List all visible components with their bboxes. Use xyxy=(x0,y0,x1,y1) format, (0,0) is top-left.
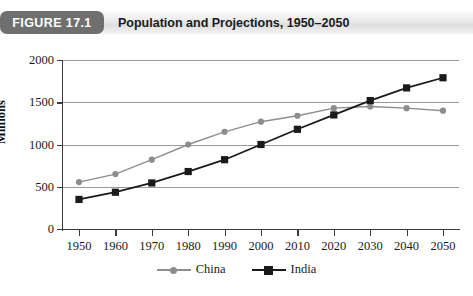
data-point-india xyxy=(403,84,410,91)
data-point-china xyxy=(185,141,191,147)
legend-label-india: India xyxy=(291,262,317,277)
legend-marker-china-icon xyxy=(157,264,191,276)
data-point-china xyxy=(331,105,337,111)
data-point-china xyxy=(258,119,264,125)
data-point-india xyxy=(294,126,301,133)
data-point-india xyxy=(75,196,82,203)
chart-plot-area xyxy=(0,40,473,296)
data-point-china xyxy=(404,105,410,111)
data-point-china xyxy=(294,113,300,119)
data-point-india xyxy=(221,156,228,163)
data-point-india xyxy=(439,74,446,81)
data-point-india xyxy=(148,179,155,186)
data-point-china xyxy=(222,129,228,135)
legend-item-china[interactable]: China xyxy=(157,262,226,277)
legend-item-india[interactable]: India xyxy=(252,262,317,277)
data-point-india xyxy=(257,141,264,148)
series-india xyxy=(75,74,446,203)
data-point-india xyxy=(185,168,192,175)
legend-label-china: China xyxy=(196,262,226,277)
legend-marker-india-icon xyxy=(252,264,286,276)
series-line-india xyxy=(79,78,443,200)
data-point-india xyxy=(367,97,374,104)
data-point-china xyxy=(76,179,82,185)
chart-container: Millions 0500100015002000 19501960197019… xyxy=(0,40,473,296)
data-point-china xyxy=(367,103,373,109)
data-point-china xyxy=(112,171,118,177)
figure-header: FIGURE 17.1 Population and Projections, … xyxy=(0,11,473,34)
data-point-china xyxy=(440,108,446,114)
data-point-india xyxy=(112,189,119,196)
data-point-india xyxy=(330,111,337,118)
figure-number-badge: FIGURE 17.1 xyxy=(0,11,104,34)
data-point-china xyxy=(149,157,155,163)
chart-legend: China India xyxy=(0,262,473,277)
figure-title: Population and Projections, 1950–2050 xyxy=(118,16,349,30)
